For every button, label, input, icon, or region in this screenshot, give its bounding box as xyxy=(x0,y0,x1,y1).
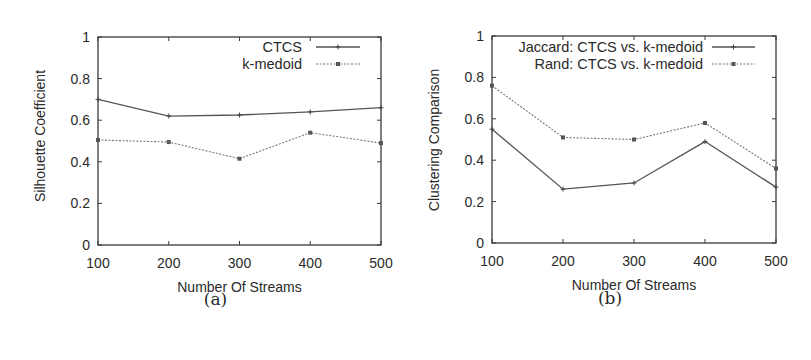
chart-b: 00.20.40.60.81100200300400500Number Of S… xyxy=(0,0,811,360)
x-axis-label: Number Of Streams xyxy=(572,277,696,293)
y-tick-label: 0 xyxy=(476,235,484,251)
legend-label: Rand: CTCS vs. k-medoid xyxy=(535,56,703,72)
figure-caption: (b) xyxy=(598,288,622,308)
y-tick-label: 1 xyxy=(476,28,484,44)
legend-label: Jaccard: CTCS vs. k-medoid xyxy=(518,39,703,55)
x-tick-label: 400 xyxy=(693,253,717,269)
series-rand-ctcs-vs-k-medoid xyxy=(490,84,778,171)
y-tick-label: 0.2 xyxy=(465,194,485,210)
chart-b-panel: 00.20.40.60.81100200300400500Number Of S… xyxy=(0,0,405,360)
x-tick-label: 500 xyxy=(764,253,788,269)
series-line xyxy=(492,86,776,169)
legend-entry: Rand: CTCS vs. k-medoid xyxy=(535,56,755,72)
legend-entry: Jaccard: CTCS vs. k-medoid xyxy=(518,39,755,55)
y-tick-label: 0.4 xyxy=(465,152,485,168)
y-tick-label: 0.8 xyxy=(465,69,485,85)
series-jaccard-ctcs-vs-k-medoid xyxy=(490,127,779,192)
y-axis-label: Clustering Comparison xyxy=(426,69,442,211)
x-tick-label: 300 xyxy=(622,253,646,269)
y-tick-label: 0.6 xyxy=(465,111,485,127)
x-tick-label: 100 xyxy=(480,253,504,269)
x-tick-label: 200 xyxy=(551,253,575,269)
